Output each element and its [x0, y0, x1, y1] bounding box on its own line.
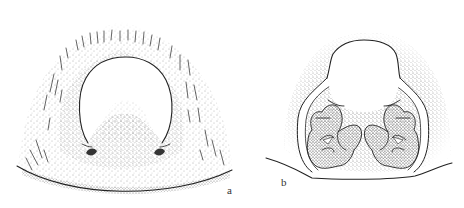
panel-label-a: a: [227, 185, 232, 196]
panel-a-drawing: [17, 22, 232, 194]
panel-b-hood: [327, 40, 400, 112]
panel-label-b: b: [281, 177, 287, 188]
scientific-figure: a b: [0, 0, 464, 208]
panel-b-drawing: [266, 33, 452, 179]
